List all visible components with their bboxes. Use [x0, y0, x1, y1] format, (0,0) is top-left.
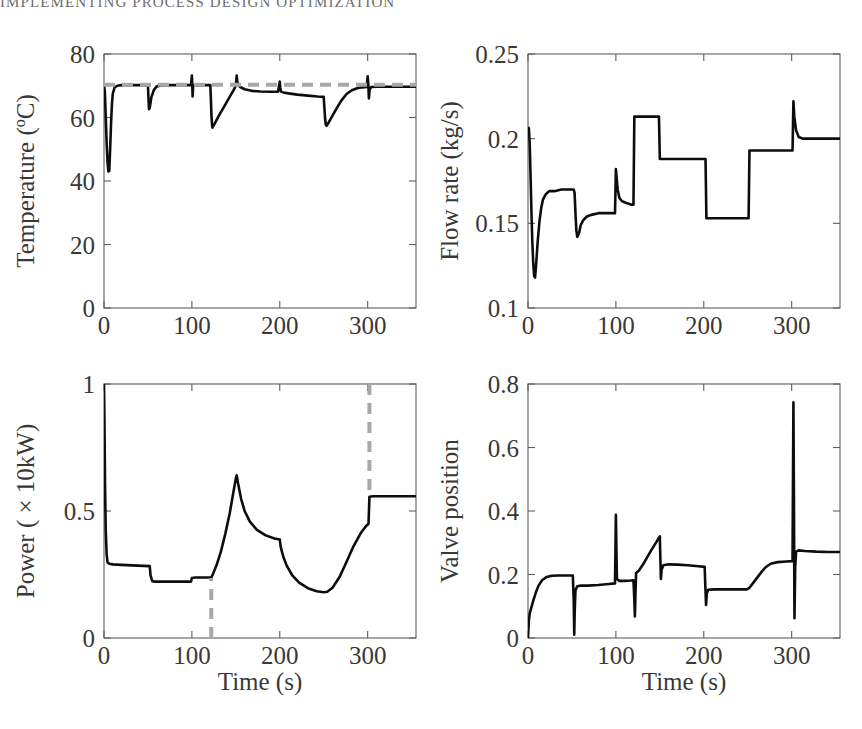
series-measured-temperature: [104, 76, 416, 172]
y-tick-label: 60: [70, 105, 95, 132]
panel-flow-rate: 01002003000.10.150.20.25Flow rate (kg/s): [432, 36, 852, 364]
y-axis-label: Valve position: [436, 439, 463, 583]
y-tick-label: 0.2: [488, 562, 519, 589]
y-tick-label: 0.25: [475, 41, 519, 68]
x-tick-label: 0: [98, 312, 111, 339]
y-tick-label: 0.1: [488, 295, 519, 322]
chart-flow_rate: 01002003000.10.150.20.25Flow rate (kg/s): [432, 36, 852, 364]
chart-temperature: 0100200300020406080Temperature (oC): [8, 36, 428, 364]
x-tick-label: 300: [349, 312, 387, 339]
x-tick-label: 0: [522, 312, 535, 339]
series-flow-rate: [528, 101, 840, 277]
x-tick-label: 200: [261, 312, 299, 339]
x-tick-label: 200: [261, 642, 299, 669]
figure-container: 0100200300020406080Temperature (oC) 0100…: [0, 14, 862, 729]
x-tick-label: 200: [685, 312, 723, 339]
x-tick-label: 200: [685, 642, 723, 669]
y-tick-label: 80: [70, 41, 95, 68]
panel-valve-position: 010020030000.20.40.60.8Valve positionTim…: [432, 366, 852, 694]
y-tick-label: 1: [83, 371, 96, 398]
x-tick-label: 300: [773, 642, 811, 669]
y-tick-label: 0.15: [475, 210, 519, 237]
y-tick-label: 0.2: [488, 126, 519, 153]
y-tick-label: 0.5: [64, 498, 95, 525]
y-tick-label: 0: [83, 625, 96, 652]
figure-page: IMPLEMENTING PROCESS DESIGN OPTIMIZATION…: [0, 0, 862, 729]
x-tick-label: 0: [98, 642, 111, 669]
y-tick-label: 40: [70, 168, 95, 195]
x-tick-label: 300: [773, 312, 811, 339]
x-tick-label: 0: [522, 642, 535, 669]
x-tick-label: 100: [597, 642, 635, 669]
chart-valve_position: 010020030000.20.40.60.8Valve positionTim…: [432, 366, 852, 694]
x-tick-label: 300: [349, 642, 387, 669]
x-tick-label: 100: [597, 312, 635, 339]
y-tick-label: 0: [83, 295, 96, 322]
y-axis-label: Power ( × 10kW): [12, 424, 40, 598]
panel-power: 010020030000.51Power ( × 10kW)Time (s): [8, 366, 428, 694]
x-axis-label: Time (s): [218, 668, 303, 696]
y-tick-label: 0.8: [488, 371, 519, 398]
y-axis-label: Flow rate (kg/s): [436, 101, 464, 261]
panel-temperature: 0100200300020406080Temperature (oC): [8, 36, 428, 364]
axis-frame: [528, 54, 840, 308]
series-valve-position: [528, 402, 840, 638]
y-axis-label: Temperature (oC): [11, 94, 40, 268]
x-axis-label: Time (s): [642, 668, 727, 696]
y-tick-label: 20: [70, 232, 95, 259]
chart-power: 010020030000.51Power ( × 10kW)Time (s): [8, 366, 428, 694]
running-head: IMPLEMENTING PROCESS DESIGN OPTIMIZATION: [0, 0, 862, 9]
x-tick-label: 100: [173, 642, 211, 669]
y-tick-label: 0.6: [488, 435, 519, 462]
y-tick-label: 0.4: [488, 498, 520, 525]
y-tick-label: 0: [507, 625, 520, 652]
x-tick-label: 100: [173, 312, 211, 339]
